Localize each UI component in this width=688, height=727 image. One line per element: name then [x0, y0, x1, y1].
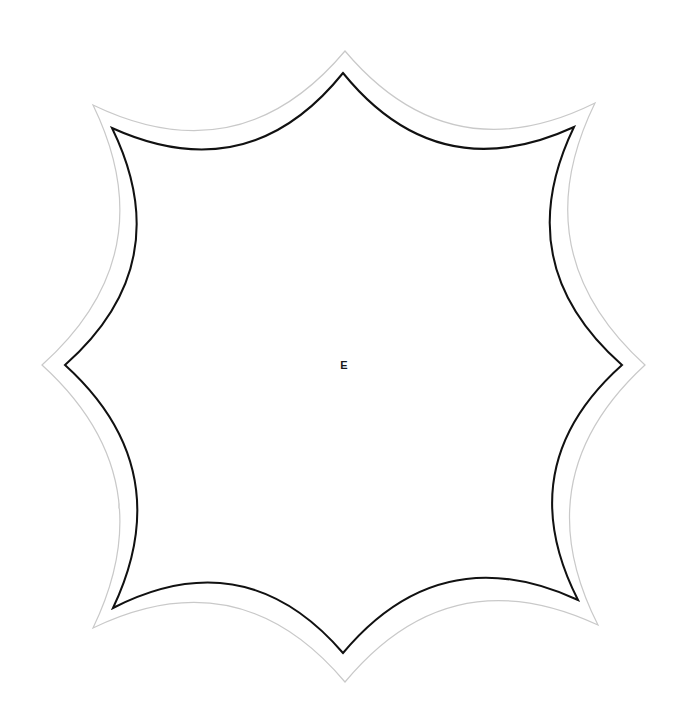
faint-registration-tick	[118, 504, 120, 509]
drawing-canvas: E	[0, 0, 688, 727]
center-piece-label: E	[340, 360, 348, 371]
